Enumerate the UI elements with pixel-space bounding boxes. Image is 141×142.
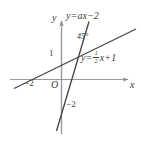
y-axis-label: y (52, 13, 57, 23)
x-tick-label-minus-2: −2 (24, 79, 34, 88)
graph-canvas (0, 0, 141, 142)
line-steep-equation-label: y=ax−2 (66, 11, 99, 21)
angle-45-label: 45° (77, 33, 89, 41)
x-axis-label: x (130, 80, 135, 90)
y-tick-label-1: 1 (49, 49, 54, 58)
equation-lead: y= (81, 53, 92, 63)
fraction-denominator: 2 (93, 58, 98, 65)
origin-label: O (51, 80, 58, 90)
fraction-numerator: 1 (93, 50, 98, 57)
fraction-one-half: 1 2 (93, 50, 98, 66)
equation-tail: x+1 (100, 53, 117, 63)
coordinate-graph-figure: y x y=ax−2 45° y= 1 2 x+1 1 O −2 −2 (0, 0, 141, 142)
y-tick-label-minus-2: −2 (66, 100, 76, 109)
line-shallow-equation-label: y= 1 2 x+1 (81, 50, 116, 66)
